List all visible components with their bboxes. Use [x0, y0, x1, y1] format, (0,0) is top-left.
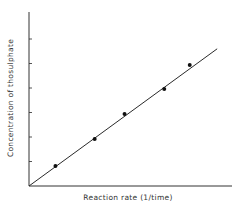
data-points	[53, 63, 191, 168]
data-point	[53, 164, 57, 168]
y-axis-label: Concentration of thosulphate	[6, 39, 15, 157]
data-point	[93, 137, 97, 141]
chart: Reaction rate (1/time) Concentration of …	[0, 0, 243, 212]
data-point	[123, 112, 127, 116]
data-point	[188, 63, 192, 67]
x-axis-label: Reaction rate (1/time)	[83, 193, 172, 202]
data-point	[162, 87, 166, 91]
